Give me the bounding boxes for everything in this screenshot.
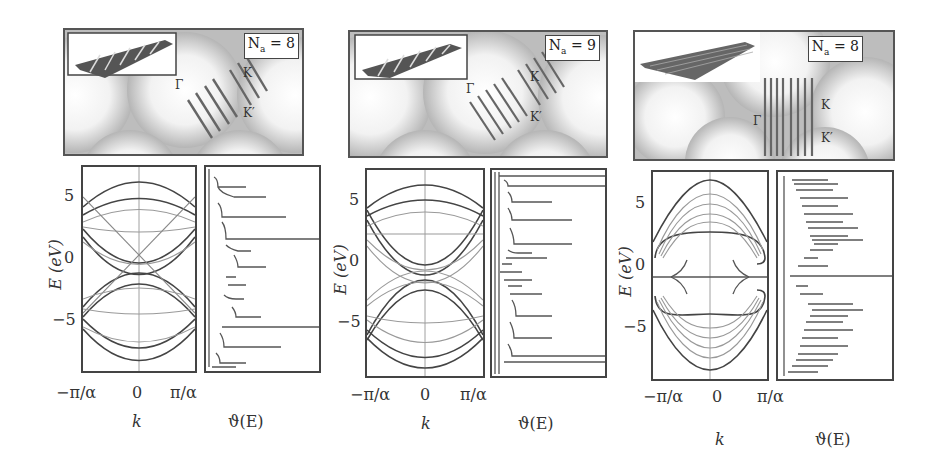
- gamma-point-label: Γ: [466, 82, 474, 96]
- y-tick-neg5: −5: [337, 312, 361, 331]
- brillouin-zone-image-middle: Na = 9 Γ K K′: [348, 30, 608, 158]
- y-axis-label: E (eV): [616, 246, 635, 296]
- atom-count-label: Na = 9: [545, 35, 600, 61]
- na-symbol: N: [549, 37, 561, 53]
- atom-count-label: Na = 8: [808, 36, 863, 62]
- x-tick-pi: π/α: [757, 387, 784, 406]
- dos-curve-left: [206, 167, 319, 371]
- kprime-point-label: K′: [243, 106, 255, 120]
- k-point-label: K: [821, 98, 830, 112]
- na-value: = 8: [829, 38, 859, 54]
- dos-curve-right: [778, 172, 892, 379]
- dos-plot-left: [204, 165, 321, 373]
- dos-plot-right: [776, 170, 894, 381]
- band-structure-plot-right: [651, 170, 769, 381]
- na-symbol: N: [812, 38, 824, 54]
- k-point-label: K: [243, 66, 252, 80]
- x-tick-0: 0: [712, 387, 722, 406]
- y-tick-0: 0: [635, 255, 645, 274]
- dos-axis-label: ϑ(E): [518, 414, 554, 433]
- y-tick-5: 5: [64, 186, 74, 205]
- y-axis-label: E (eV): [46, 239, 65, 289]
- y-tick-5: 5: [349, 190, 359, 209]
- x-tick-neg-pi: −π/α: [350, 385, 390, 404]
- dos-axis-label: ϑ(E): [228, 412, 264, 431]
- na-value: = 8: [265, 35, 295, 51]
- kprime-point-label: K′: [821, 131, 833, 145]
- y-tick-neg5: −5: [52, 310, 76, 329]
- dos-plot-middle: [490, 168, 607, 378]
- na-symbol: N: [248, 35, 260, 51]
- dos-curve-middle: [492, 170, 605, 376]
- band-curves-right: [653, 172, 767, 379]
- x-axis-label: k: [421, 414, 431, 433]
- y-tick-5: 5: [635, 193, 645, 212]
- brillouin-zone-image-right: Na = 8 Γ K K′: [633, 30, 895, 161]
- x-axis-label: k: [132, 412, 142, 431]
- gamma-point-label: Γ: [175, 78, 183, 92]
- atom-count-label: Na = 8: [244, 33, 299, 59]
- band-curves-middle: [367, 170, 483, 376]
- x-axis-label: k: [715, 430, 725, 449]
- x-tick-neg-pi: −π/α: [56, 383, 96, 402]
- x-tick-pi: π/α: [170, 383, 197, 402]
- x-tick-neg-pi: −π/α: [643, 387, 683, 406]
- brillouin-zone-image-left: Na = 8 Γ K K′: [63, 28, 304, 156]
- y-tick-0: 0: [64, 248, 74, 267]
- gamma-point-label: Γ: [753, 114, 761, 128]
- band-structure-plot-left: [81, 165, 197, 373]
- band-curves-left: [83, 167, 195, 371]
- y-tick-neg5: −5: [623, 317, 647, 336]
- dos-axis-label: ϑ(E): [815, 430, 851, 449]
- x-tick-0: 0: [132, 383, 142, 402]
- y-tick-0: 0: [349, 251, 359, 270]
- k-point-label: K: [530, 70, 539, 84]
- x-tick-pi: π/α: [460, 385, 487, 404]
- na-value: = 9: [566, 37, 596, 53]
- kprime-point-label: K′: [530, 110, 542, 124]
- y-axis-label: E (eV): [331, 244, 350, 294]
- band-structure-plot-middle: [365, 168, 485, 378]
- x-tick-0: 0: [420, 385, 430, 404]
